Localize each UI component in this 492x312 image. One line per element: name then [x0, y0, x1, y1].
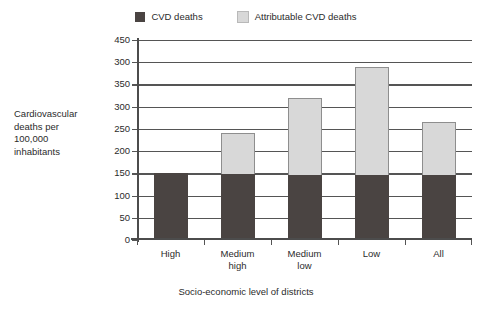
x-axis-category-label-line: All: [404, 248, 474, 260]
x-axis-title: Socio-economic level of districts: [0, 286, 492, 297]
bar-segment-cvd-deaths[interactable]: [154, 173, 188, 240]
y-axis-tick-label: 200: [100, 146, 130, 156]
x-axis-tick-mark: [338, 240, 339, 245]
x-axis-category-label-line: low: [270, 260, 340, 272]
y-axis-title: Cardiovascular deaths per 100,000 inhabi…: [14, 108, 106, 158]
legend-entry-attributable-cvd-deaths: Attributable CVD deaths: [237, 11, 357, 23]
x-axis-category-label-line: Low: [337, 248, 407, 260]
y-axis-tick-label: 0: [100, 235, 130, 245]
bar-group[interactable]: [221, 40, 255, 240]
x-axis-category-label: Mediumhigh: [203, 248, 273, 272]
y-axis-title-line-2: deaths per: [14, 121, 106, 134]
bar-group[interactable]: [355, 40, 389, 240]
x-axis-category-label-line: Medium: [203, 248, 273, 260]
x-axis-category-label: Mediumlow: [270, 248, 340, 272]
x-axis-category-labels: HighMediumhighMediumlowLowAll: [137, 248, 472, 276]
y-axis-tick-labels: 050100150200250300350300450: [100, 34, 130, 240]
bar-group[interactable]: [288, 40, 322, 240]
y-axis-tick-label: 250: [100, 124, 130, 134]
legend-entry-cvd-deaths: CVD deaths: [135, 12, 202, 22]
x-axis-tick-mark: [405, 240, 406, 245]
legend-swatch-light-icon: [237, 11, 249, 23]
bar-segment-cvd-deaths[interactable]: [221, 174, 255, 240]
x-axis-tick-marks: [137, 240, 472, 245]
x-axis-tick-mark: [271, 240, 272, 245]
bar-segment-attributable-cvd-deaths[interactable]: [422, 122, 456, 175]
y-axis-title-line-1: Cardiovascular: [14, 108, 106, 121]
bar-group[interactable]: [422, 40, 456, 240]
bar-group[interactable]: [154, 40, 188, 240]
x-axis-tick-mark: [471, 240, 472, 245]
legend-label-cvd-deaths: CVD deaths: [151, 12, 202, 22]
x-axis-category-label-line: High: [136, 248, 206, 260]
y-axis-tick-label: 450: [100, 35, 130, 45]
x-axis-tick-mark: [137, 240, 138, 245]
bar-segment-cvd-deaths[interactable]: [288, 175, 322, 240]
chart-legend: CVD deaths Attributable CVD deaths: [0, 11, 492, 23]
bars-layer: [137, 40, 472, 240]
bar-segment-attributable-cvd-deaths[interactable]: [355, 67, 389, 175]
chart-plot-area: [137, 40, 472, 240]
y-axis-tick-label: 50: [100, 213, 130, 223]
bar-segment-cvd-deaths[interactable]: [355, 175, 389, 240]
y-axis-title-line-4: inhabitants: [14, 146, 106, 159]
y-axis-title-line-3: 100,000: [14, 133, 106, 146]
x-axis-tick-mark: [204, 240, 205, 245]
x-axis-category-label: All: [404, 248, 474, 260]
y-axis-tick-label: 300: [100, 102, 130, 112]
bar-segment-attributable-cvd-deaths[interactable]: [288, 98, 322, 175]
legend-swatch-dark-icon: [135, 12, 145, 22]
y-axis-tick-label: 350: [100, 79, 130, 89]
y-axis-tick-label: 100: [100, 191, 130, 201]
bar-segment-cvd-deaths[interactable]: [422, 175, 456, 240]
x-axis-category-label-line: high: [203, 260, 273, 272]
y-axis-tick-label: 150: [100, 168, 130, 178]
bar-segment-attributable-cvd-deaths[interactable]: [221, 133, 255, 174]
chart-plot-wrapper: 050100150200250300350300450: [100, 34, 472, 246]
legend-label-attributable-cvd-deaths: Attributable CVD deaths: [255, 12, 357, 22]
x-axis-category-label-line: Medium: [270, 248, 340, 260]
x-axis-category-label: High: [136, 248, 206, 260]
y-axis-tick-label: 300: [100, 57, 130, 67]
x-axis-category-label: Low: [337, 248, 407, 260]
